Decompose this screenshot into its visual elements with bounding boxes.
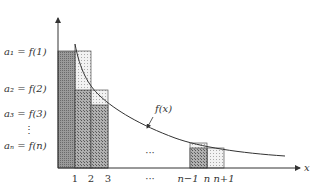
tick-2: 2 bbox=[88, 173, 94, 184]
label-an: aₙ = f(n) bbox=[4, 140, 47, 151]
x-axis-labels: 1 2 3 ··· n−1 n n+1 bbox=[72, 173, 235, 184]
middle-ellipsis: ··· bbox=[145, 147, 155, 158]
tick-n: n bbox=[204, 173, 210, 184]
label-vdots: ⋮ bbox=[24, 124, 34, 135]
label-a1: a₁ = f(1) bbox=[4, 46, 47, 57]
integral-test-diagram: a₁ = f(1) a₂ = f(2) a₃ = f(3) ⋮ aₙ = f(n… bbox=[0, 0, 319, 193]
y-axis-labels: a₁ = f(1) a₂ = f(2) a₃ = f(3) ⋮ aₙ = f(n… bbox=[4, 46, 47, 151]
label-a3: a₃ = f(3) bbox=[4, 108, 47, 119]
x-axis-label: x bbox=[304, 162, 310, 173]
tick-1: 1 bbox=[72, 173, 78, 184]
tick-3: 3 bbox=[105, 173, 111, 184]
curve-label-arrow bbox=[147, 117, 153, 128]
label-a2: a₂ = f(2) bbox=[4, 83, 47, 94]
tick-n-minus-1: n−1 bbox=[177, 173, 198, 184]
curve-label: f(x) bbox=[154, 103, 172, 114]
tick-ellipsis: ··· bbox=[145, 173, 155, 184]
tick-n-plus-1: n+1 bbox=[213, 173, 234, 184]
